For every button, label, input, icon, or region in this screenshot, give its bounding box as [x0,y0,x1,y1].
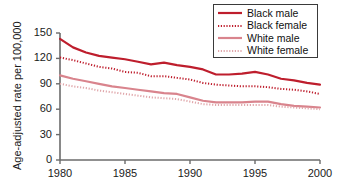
legend-label: White female [247,45,308,56]
legend-item-3: White female [217,45,317,58]
legend-item-2: White male [217,32,317,45]
y-tick-label: 0 [18,153,52,165]
series-line-1 [60,58,320,94]
chart-legend: Black maleBlack femaleWhite maleWhite fe… [213,4,318,58]
y-tick-label: 120 [18,51,52,63]
legend-item-0: Black male [217,7,317,20]
x-tick-label: 1980 [38,167,82,179]
legend-swatch-icon [217,33,243,43]
y-tick-label: 30 [18,128,52,140]
y-tick-label: 150 [18,26,52,38]
legend-swatch-icon [217,8,243,18]
y-tick-label: 60 [18,102,52,114]
x-tick-label: 1990 [168,167,212,179]
legend-swatch-icon [217,46,243,56]
legend-label: White male [247,33,300,44]
x-tick-label: 2000 [298,167,337,179]
y-tick-label: 90 [18,77,52,89]
y-axis-title: Age-adjusted rate per 100,000 [11,22,23,170]
series-line-2 [60,75,320,107]
x-tick-label: 1985 [103,167,147,179]
legend-swatch-icon [217,21,243,31]
x-tick-label: 1995 [233,167,277,179]
legend-label: Black male [247,8,298,19]
legend-label: Black female [247,20,307,31]
legend-item-1: Black female [217,20,317,33]
